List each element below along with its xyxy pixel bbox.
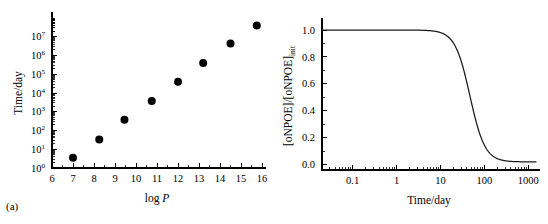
panel-b-svg: 0.00.20.40.60.81.00.11101001000Time/day[… xyxy=(274,0,548,224)
panel-a-ylabel: Time/day xyxy=(12,71,25,115)
panel-a-y-ticklabel: 101 xyxy=(31,143,46,155)
panel-a-x-ticklabel: 14 xyxy=(215,173,226,184)
panel-b-y-ticklabel: 0.4 xyxy=(302,105,316,116)
panel-b-y-ticklabel: 0.0 xyxy=(302,159,315,170)
panel-b-x-ticklabel: 10 xyxy=(435,175,446,186)
panel-a-x-ticklabel: 6 xyxy=(49,173,54,184)
panel-b-x-ticklabel: 1 xyxy=(394,175,399,186)
panel-a-tag: (a) xyxy=(6,200,18,212)
panel-b-y-ticklabel: 0.8 xyxy=(302,52,315,63)
panel-a-y-ticklabel: 106 xyxy=(31,49,46,61)
panel-a-y-ticklabel: 103 xyxy=(31,105,46,117)
panel-a-y-ticklabel: 100 xyxy=(31,162,46,174)
panel-a-x-ticklabel: 15 xyxy=(236,173,247,184)
panel-a-y-ticklabel: 105 xyxy=(31,68,46,80)
panel-a-y-ticklabel: 107 xyxy=(31,30,46,42)
panel-a-datapoint xyxy=(120,116,128,124)
panel-a-datapoint xyxy=(174,78,182,86)
panel-b-y-ticklabel: 1.0 xyxy=(302,25,315,36)
panel-b-ylabel: [oNPOE]/[oNPOE]init xyxy=(282,45,297,146)
panel-a-y-ticklabel: 102 xyxy=(31,124,46,136)
panel-a-datapoint xyxy=(227,40,235,48)
panel-b-line-plot: 0.00.20.40.60.81.00.11101001000Time/day[… xyxy=(274,0,548,224)
panel-a-x-ticklabel: 11 xyxy=(152,173,162,184)
panel-a-x-ticklabel: 10 xyxy=(131,173,142,184)
panel-a-scatter-plot: 1001011021031041051061076789101112131415… xyxy=(0,0,274,224)
panel-b-x-ticklabel: 0.1 xyxy=(346,175,359,186)
panel-a-datapoint xyxy=(95,136,103,144)
panel-a-axes xyxy=(52,12,266,168)
panel-b-x-ticklabel: 1000 xyxy=(518,175,539,186)
panel-a-datapoint xyxy=(69,154,77,162)
panel-a-x-ticklabel: 9 xyxy=(112,173,117,184)
panel-a-y-ticklabel: 104 xyxy=(31,87,46,99)
panel-a-datapoint xyxy=(199,59,207,67)
panel-a-xlabel: log P xyxy=(145,192,170,205)
panel-b-decay-curve xyxy=(322,30,536,162)
panel-b-y-ticklabel: 0.6 xyxy=(302,78,315,89)
panel-a-x-ticklabel: 7 xyxy=(70,173,75,184)
panel-a-svg: 1001011021031041051061076789101112131415… xyxy=(0,0,274,224)
panel-b-xlabel: Time/day xyxy=(407,194,451,207)
figure-container: 1001011021031041051061076789101112131415… xyxy=(0,0,548,224)
panel-a-datapoint xyxy=(148,97,156,105)
panel-b-axes xyxy=(322,18,540,170)
panel-a-x-ticklabel: 12 xyxy=(173,173,184,184)
panel-a-x-ticklabel: 8 xyxy=(91,173,96,184)
panel-a-x-ticklabel: 13 xyxy=(194,173,205,184)
panel-a-datapoint xyxy=(253,21,261,29)
panel-a-x-ticklabel: 16 xyxy=(257,173,268,184)
panel-b-x-ticklabel: 100 xyxy=(476,175,492,186)
panel-b-y-ticklabel: 0.2 xyxy=(302,132,315,143)
